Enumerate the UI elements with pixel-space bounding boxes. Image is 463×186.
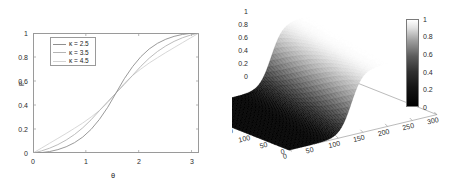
legend-box: κ = 2.5 κ = 3.5 κ = 4.5 bbox=[50, 37, 96, 66]
ytick-label-3d: 50 bbox=[259, 141, 268, 150]
legend-line-swatch-icon bbox=[53, 61, 66, 62]
surface-plot-canvas: 050100150200250300050100150200250300 bbox=[232, 0, 463, 186]
ztick-label: 1 bbox=[228, 8, 248, 15]
xtick-label-3d: 250 bbox=[402, 122, 415, 131]
ztick-label: 0.4 bbox=[228, 47, 248, 54]
right-surface-plot-panel: 050100150200250300050100150200250300 1 0… bbox=[232, 0, 463, 186]
colorbar-tick-label: 0.4 bbox=[423, 69, 433, 76]
legend-label: κ = 3.5 bbox=[69, 49, 89, 57]
left-line-plot-panel: 1 0.8 0.6 0.4 0.2 0 0 1 2 3 P θ κ = 2.5 … bbox=[0, 0, 232, 186]
xtick-label: 3 bbox=[190, 158, 194, 165]
ytick-label: 0.2 bbox=[0, 126, 28, 133]
ytick-label-3d: 0 bbox=[280, 148, 285, 156]
colorbar-tick-label: 0.8 bbox=[423, 33, 433, 40]
y-axis-title: P bbox=[18, 81, 26, 86]
xtick-label-3d: 300 bbox=[426, 116, 439, 125]
ztick-label: 0.8 bbox=[228, 21, 248, 28]
legend-label: κ = 4.5 bbox=[69, 57, 89, 65]
ztick-label: 0.6 bbox=[228, 34, 248, 41]
colorbar-tick-label: 1 bbox=[423, 16, 427, 23]
ytick-label-3d: 100 bbox=[238, 134, 251, 143]
xtick-label: 1 bbox=[84, 158, 88, 165]
xtick-label-3d: 50 bbox=[305, 146, 314, 155]
legend-label: κ = 2.5 bbox=[69, 40, 89, 48]
colorbar-tick-label: 0 bbox=[423, 104, 427, 111]
colorbar-tick-label: 0.6 bbox=[423, 51, 433, 58]
x-axis-title: θ bbox=[111, 172, 115, 180]
ytick-label: 0.8 bbox=[0, 54, 28, 61]
ytick-label-3d: 150 bbox=[232, 127, 234, 136]
colorbar-tick-label: 0.2 bbox=[423, 86, 433, 93]
xtick-label-3d: 100 bbox=[328, 140, 341, 149]
legend-item: κ = 2.5 bbox=[53, 40, 93, 48]
legend-item: κ = 4.5 bbox=[53, 57, 93, 65]
ytick-label: 0.4 bbox=[0, 102, 28, 109]
ztick-label: 0.2 bbox=[228, 60, 248, 67]
legend-line-swatch-icon bbox=[53, 52, 66, 53]
xtick-label-3d: 150 bbox=[352, 134, 365, 143]
ytick-label: 0 bbox=[0, 150, 28, 157]
legend-item: κ = 3.5 bbox=[53, 49, 93, 57]
ztick-label: 0 bbox=[228, 73, 248, 80]
figure-container: 1 0.8 0.6 0.4 0.2 0 0 1 2 3 P θ κ = 2.5 … bbox=[0, 0, 463, 186]
legend-line-swatch-icon bbox=[53, 44, 66, 45]
colorbar-gradient bbox=[406, 19, 419, 107]
ytick-label: 1 bbox=[0, 30, 28, 37]
xtick-label: 2 bbox=[137, 158, 141, 165]
xtick-label-3d: 200 bbox=[377, 128, 390, 137]
xtick-label: 0 bbox=[31, 158, 35, 165]
